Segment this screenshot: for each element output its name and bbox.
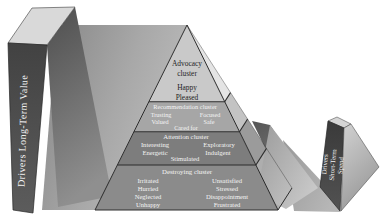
- emotion-value-pyramid-figure: Drivers Long-Term Value Drivers Short-Te…: [0, 0, 392, 217]
- emotion-frustrated: Frustrated: [214, 201, 241, 208]
- emotion-hurried: Hurried: [138, 185, 159, 192]
- emotion-safe: Safe: [204, 118, 215, 125]
- recommendation-cluster-title: Recommendation cluster: [153, 103, 218, 110]
- right-bar-side-face: [341, 124, 379, 211]
- attention-cluster-title: Attention cluster: [163, 133, 209, 140]
- emotion-stressed: Stressed: [216, 185, 239, 192]
- emotion-exploratory: Exploratory: [203, 141, 235, 148]
- emotion-unhappy: Unhappy: [136, 201, 161, 208]
- emotion-valued: Valued: [151, 118, 169, 125]
- emotion-neglected: Neglected: [135, 193, 162, 200]
- emotion-pleased: Pleased: [176, 93, 199, 102]
- emotion-indulgent: Indulgent: [205, 149, 230, 156]
- advocacy-cluster-title-line1: Advocacy: [172, 59, 202, 68]
- emotion-trusting: Trusting: [151, 111, 172, 118]
- emotion-focused: Focused: [200, 111, 222, 118]
- emotion-disappointment: Disappointment: [206, 193, 248, 200]
- emotion-unsatisfied: Unsatisfied: [212, 177, 243, 184]
- destroying-cluster-title: Destroying cluster: [162, 168, 213, 175]
- advocacy-cluster-title-line2: cluster: [177, 69, 197, 78]
- emotion-happy: Happy: [177, 83, 197, 92]
- emotion-interesting: Interesting: [141, 141, 170, 148]
- emotion-stimulated: Stimulated: [171, 155, 200, 162]
- emotion-energetic: Energetic: [142, 149, 167, 156]
- pyramid-diagram-canvas: Drivers Long-Term Value Drivers Short-Te…: [0, 0, 392, 217]
- emotion-irritated: Irritated: [137, 177, 159, 184]
- emotion-cared-for: Cared for: [174, 124, 198, 131]
